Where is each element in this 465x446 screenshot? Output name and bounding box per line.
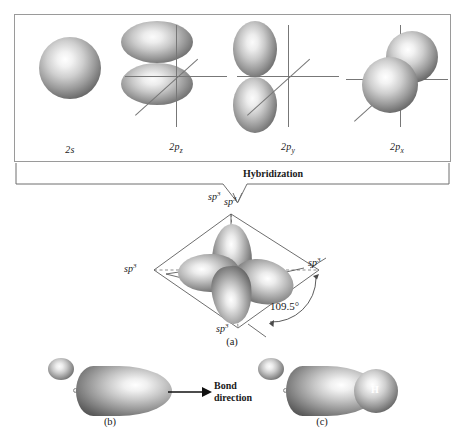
orbital-2px-label: 2px (342, 141, 452, 155)
p-lobe-upper (121, 21, 193, 63)
p-lobe-left (233, 21, 277, 77)
orbital-2pz: 2pz (121, 15, 231, 163)
single-orbital-panel: Bond direction (b) (48, 358, 228, 432)
bond-direction-label: Bond direction (214, 380, 252, 403)
p-lobe-right (233, 77, 277, 133)
hydrogen-label: H (371, 384, 379, 395)
orbital-2px-art (342, 21, 452, 131)
orbital-2s: 2s (15, 15, 125, 163)
orbital-2py-art (233, 21, 343, 131)
sp3-front-lobe (76, 366, 172, 416)
hybridization-label: Hybridization (243, 168, 303, 179)
orbital-2s-art (15, 21, 125, 131)
orbital-2s-label: 2s (15, 144, 125, 155)
orbital-2pz-label: 2pz (121, 141, 231, 155)
orbital-2py-label: 2py (233, 141, 343, 155)
orbital-overlap-panel: H (c) (258, 358, 438, 432)
p-lobe-lower (121, 63, 193, 105)
bond-angle-label: 109.5° (270, 300, 299, 312)
figure-canvas: 2s 2pz (0, 0, 465, 446)
bond-direction-arrow (168, 384, 214, 404)
atomic-orbitals-frame: 2s 2pz (14, 14, 451, 162)
sp3-label-left: sp3 (124, 262, 136, 274)
tetrahedral-panel: sp3 sp3 (120, 196, 356, 346)
panel-letter-b: (b) (90, 416, 130, 427)
orbital-2pz-art (121, 21, 231, 131)
panel-letter-a: (a) (212, 336, 252, 347)
p-lobe-lower-left (362, 57, 418, 113)
sp3-back-lobe (258, 358, 284, 380)
sp3-back-lobe (48, 358, 74, 380)
orbital-2px: 2px (342, 15, 452, 163)
hybridization-result-label: sp3 (208, 190, 220, 202)
sp3-label-bottom: sp3 (216, 322, 228, 334)
orbital-2py: 2py (233, 15, 343, 163)
panel-letter-c: (c) (302, 416, 342, 427)
sp3-label-right: sp3 (308, 256, 320, 268)
s-orbital-sphere (39, 37, 101, 99)
